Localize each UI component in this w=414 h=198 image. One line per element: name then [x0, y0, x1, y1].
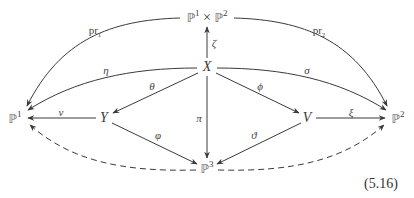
label-eta: η	[103, 65, 108, 76]
node-y: Y	[100, 111, 108, 125]
arrow-dashed-right	[218, 125, 384, 170]
arrow-dashed-left	[30, 125, 196, 170]
label-zeta: ζ	[212, 38, 216, 49]
label-phi: ϕ	[257, 81, 263, 92]
label-pr1: pr1	[89, 25, 102, 39]
node-p2: ℙ2	[392, 110, 405, 126]
label-xi: ξ	[349, 107, 354, 118]
node-x: X	[203, 60, 212, 74]
node-v: V	[303, 111, 312, 125]
label-theta: θ	[149, 81, 154, 92]
label-sigma: σ	[304, 65, 309, 76]
label-pr2: pr2	[313, 25, 326, 39]
label-pi: π	[196, 113, 202, 124]
label-vartheta: ϑ	[251, 130, 256, 141]
arrow-vartheta	[217, 123, 301, 164]
equation-number: (5.16)	[364, 176, 398, 192]
node-p3: ℙ3	[201, 160, 214, 176]
node-p1-times-p2: ℙ1 × ℙ2	[187, 9, 228, 25]
label-varphi: φ	[155, 130, 161, 141]
label-nu: ν	[59, 107, 64, 118]
node-p1: ℙ1	[9, 110, 22, 126]
arrow-theta	[113, 73, 198, 113]
arrow-eta	[28, 68, 197, 110]
arrow-sigma	[217, 68, 386, 110]
